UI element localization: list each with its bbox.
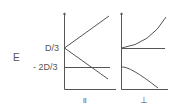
lower-level-label: - 2D/3 bbox=[33, 63, 58, 72]
energy-axis-label: E bbox=[13, 53, 20, 63]
perpendicular-falling-curve bbox=[122, 67, 159, 88]
parallel-x-label: ll bbox=[83, 97, 87, 105]
energy-level-diagram bbox=[0, 0, 178, 111]
perpendicular-axis-tip bbox=[121, 13, 123, 15]
upper-level-label: D/3 bbox=[45, 44, 59, 53]
parallel-falling-line bbox=[65, 48, 109, 79]
parallel-axis-tip bbox=[64, 13, 66, 15]
perpendicular-panel bbox=[121, 13, 168, 89]
perpendicular-rising-curve bbox=[122, 17, 167, 48]
parallel-panel bbox=[64, 13, 116, 89]
parallel-rising-line bbox=[65, 16, 110, 48]
perpendicular-x-label: ⊥ bbox=[140, 96, 148, 105]
